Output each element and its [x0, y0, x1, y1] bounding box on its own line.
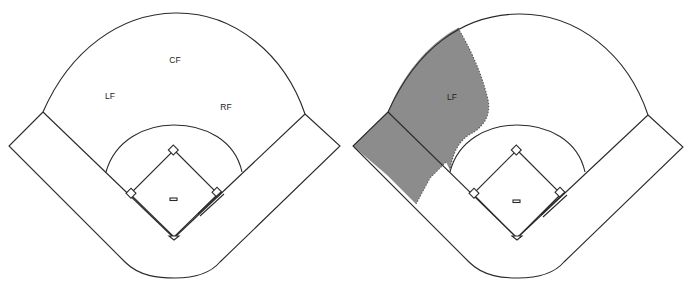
home-plate: [512, 236, 522, 240]
field-svg: LF: [346, 0, 692, 292]
home-plate: [169, 236, 179, 240]
label-center-field: CF: [169, 55, 180, 65]
field-svg: CF LF RF: [0, 0, 346, 292]
baseball-field-diagram-lf-coverage: LF: [346, 0, 692, 292]
left-foul-line: [43, 112, 174, 238]
infield-diamond: [130, 150, 218, 237]
pitchers-rubber: [513, 200, 520, 203]
runners-lane: [541, 193, 567, 217]
infield-diamond: [473, 150, 561, 238]
baseball-field-diagram-positions: CF LF RF: [0, 0, 346, 292]
runners-lane: [198, 192, 224, 216]
foul-territory-outline: [9, 112, 340, 278]
left-field-coverage-area: [353, 28, 489, 204]
right-foul-line: [174, 114, 305, 238]
label-right-field: RF: [220, 102, 231, 112]
right-foul-line: [517, 115, 648, 238]
pitchers-rubber: [170, 198, 177, 201]
label-left-field: LF: [105, 91, 115, 101]
label-left-field: LF: [447, 92, 457, 102]
